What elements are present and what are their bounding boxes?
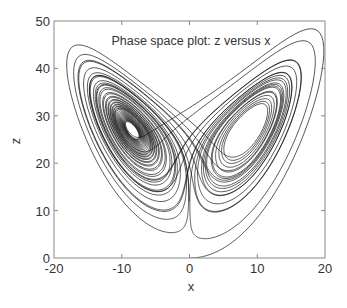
chart-title: Phase space plot: z versus x (111, 34, 271, 48)
y-axis-label: z (8, 138, 23, 145)
phase-space-chart: -20-1001020 01020304050 Phase space plot… (0, 0, 347, 308)
x-tick-label: 10 (250, 261, 264, 276)
y-tick-label: 20 (36, 156, 50, 171)
x-axis-label: x (188, 279, 195, 294)
y-tick-label: 30 (36, 109, 50, 124)
lorenz-trajectory-line (67, 29, 324, 258)
x-tick-labels: -20-1001020 (45, 261, 333, 276)
x-tick-label: -10 (112, 261, 131, 276)
y-tick-label: 40 (36, 61, 50, 76)
x-tick-label: 0 (186, 261, 193, 276)
y-tick-label: 10 (36, 204, 50, 219)
y-tick-labels: 01020304050 (36, 14, 50, 266)
y-tick-label: 50 (36, 14, 50, 29)
x-tick-label: 20 (318, 261, 332, 276)
y-tick-label: 0 (43, 251, 50, 266)
